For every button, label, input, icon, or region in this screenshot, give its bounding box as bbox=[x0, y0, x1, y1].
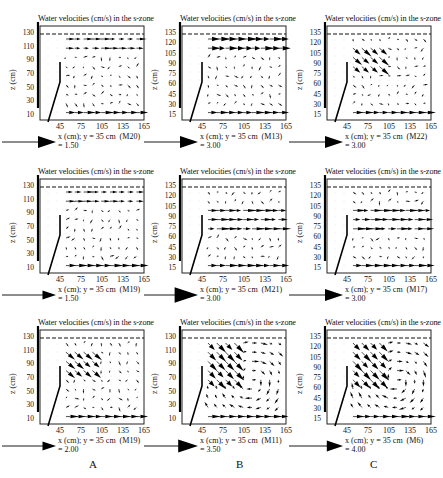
x-tick-label: 75 bbox=[213, 122, 233, 131]
vector-plot-m17: Water velocities (cm/s) in the s-zonez (… bbox=[287, 167, 435, 317]
x-tick-label: 105 bbox=[379, 426, 399, 435]
x-tick-label: 45 bbox=[50, 275, 70, 284]
y-tick-label: 75 bbox=[301, 69, 321, 78]
y-tick-label: 90 bbox=[14, 55, 34, 64]
x-axis-label: x (cm); y = 35 cm bbox=[58, 285, 116, 294]
x-axis-caption: x (cm); y = 35 cm(M19) bbox=[58, 436, 140, 445]
plot-title: Water velocities (cm/s) in the s-zone bbox=[180, 318, 296, 327]
x-tick-label: 135 bbox=[113, 426, 133, 435]
y-tick-label: 30 bbox=[14, 96, 34, 105]
x-tick-label: 135 bbox=[400, 426, 420, 435]
y-tick-label: 45 bbox=[301, 90, 321, 99]
y-tick-label: 90 bbox=[301, 212, 321, 221]
y-tick-label: 45 bbox=[156, 90, 176, 99]
x-axis-label: x (cm); y = 35 cm bbox=[345, 436, 403, 445]
x-tick-label: 75 bbox=[358, 426, 378, 435]
column-label-b: B bbox=[236, 458, 243, 470]
y-tick-label: 30 bbox=[301, 100, 321, 109]
y-tick-label: 130 bbox=[156, 332, 176, 341]
y-tick-label: 110 bbox=[156, 346, 176, 355]
y-tick-label: 105 bbox=[156, 49, 176, 58]
y-tick-label: 110 bbox=[14, 346, 34, 355]
y-tick-label: 75 bbox=[301, 373, 321, 382]
vector-plot-m21: Water velocities (cm/s) in the s-zonez (… bbox=[142, 167, 290, 317]
plot-title: Water velocities (cm/s) in the s-zone bbox=[325, 318, 441, 327]
x-axis-label: x (cm); y = 35 cm bbox=[200, 436, 258, 445]
scale-value: = 3.00 bbox=[200, 141, 221, 150]
vector-plot-m20: Water velocities (cm/s) in the s-zonez (… bbox=[0, 14, 148, 164]
x-tick-label: 165 bbox=[421, 275, 441, 284]
x-tick-label: 45 bbox=[192, 122, 212, 131]
x-axis-label: x (cm); y = 35 cm bbox=[200, 132, 258, 141]
x-tick-label: 135 bbox=[113, 275, 133, 284]
x-tick-label: 105 bbox=[234, 426, 254, 435]
x-tick-label: 45 bbox=[337, 122, 357, 131]
x-axis-label: x (cm); y = 35 cm bbox=[200, 285, 258, 294]
x-axis-caption: x (cm); y = 35 cm(M21) bbox=[200, 285, 282, 294]
y-tick-label: 30 bbox=[156, 253, 176, 262]
x-axis-caption: x (cm); y = 35 cm(M6) bbox=[345, 436, 423, 445]
y-tick-label: 130 bbox=[14, 332, 34, 341]
x-tick-label: 75 bbox=[213, 426, 233, 435]
run-id: (M21) bbox=[262, 285, 282, 294]
scale-value: = 4.00 bbox=[345, 445, 366, 454]
x-tick-label: 75 bbox=[358, 275, 378, 284]
x-tick-label: 135 bbox=[255, 275, 275, 284]
x-axis-caption: x (cm); y = 35 cm(M22) bbox=[345, 132, 427, 141]
x-tick-label: 105 bbox=[92, 426, 112, 435]
x-axis-caption: x (cm); y = 35 cm(M11) bbox=[200, 436, 282, 445]
y-tick-label: 90 bbox=[14, 208, 34, 217]
y-tick-label: 135 bbox=[301, 28, 321, 37]
run-id: (M22) bbox=[407, 132, 427, 141]
x-axis-label: x (cm); y = 35 cm bbox=[58, 132, 116, 141]
y-tick-label: 135 bbox=[156, 28, 176, 37]
y-tick-label: 45 bbox=[301, 394, 321, 403]
y-tick-label: 30 bbox=[14, 400, 34, 409]
x-tick-label: 45 bbox=[192, 275, 212, 284]
y-tick-label: 135 bbox=[156, 181, 176, 190]
y-tick-label: 15 bbox=[156, 110, 176, 119]
y-tick-label: 120 bbox=[301, 38, 321, 47]
y-tick-label: 105 bbox=[301, 202, 321, 211]
y-tick-label: 70 bbox=[14, 69, 34, 78]
scale-value: = 1.50 bbox=[58, 294, 79, 303]
x-tick-label: 135 bbox=[400, 122, 420, 131]
y-tick-label: 110 bbox=[14, 195, 34, 204]
scale-value: = 3.00 bbox=[345, 294, 366, 303]
x-tick-label: 105 bbox=[92, 275, 112, 284]
x-tick-label: 45 bbox=[192, 426, 212, 435]
scale-value: = 1.50 bbox=[58, 141, 79, 150]
vector-plot-m19b: Water velocities (cm/s) in the s-zonez (… bbox=[0, 318, 148, 468]
x-axis-label: x (cm); y = 35 cm bbox=[58, 436, 116, 445]
y-tick-label: 90 bbox=[14, 359, 34, 368]
y-tick-label: 10 bbox=[14, 263, 34, 272]
x-tick-label: 105 bbox=[379, 275, 399, 284]
y-tick-label: 30 bbox=[156, 400, 176, 409]
y-tick-label: 120 bbox=[156, 38, 176, 47]
y-tick-label: 90 bbox=[156, 59, 176, 68]
x-tick-label: 75 bbox=[358, 122, 378, 131]
y-tick-label: 90 bbox=[156, 212, 176, 221]
run-id: (M11) bbox=[262, 436, 282, 445]
x-tick-label: 45 bbox=[337, 275, 357, 284]
y-tick-label: 105 bbox=[301, 353, 321, 362]
x-axis-caption: x (cm); y = 35 cm(M19) bbox=[58, 285, 140, 294]
scale-value: = 2.00 bbox=[58, 445, 79, 454]
x-axis-caption: x (cm); y = 35 cm(M20) bbox=[58, 132, 140, 141]
y-tick-label: 120 bbox=[301, 191, 321, 200]
y-tick-label: 60 bbox=[156, 79, 176, 88]
run-id: (M20) bbox=[120, 132, 140, 141]
run-id: (M13) bbox=[262, 132, 282, 141]
y-tick-label: 105 bbox=[156, 202, 176, 211]
run-id: (M6) bbox=[407, 436, 423, 445]
y-tick-label: 60 bbox=[301, 79, 321, 88]
y-tick-label: 90 bbox=[156, 359, 176, 368]
y-tick-label: 75 bbox=[301, 222, 321, 231]
y-tick-label: 15 bbox=[301, 110, 321, 119]
x-tick-label: 135 bbox=[113, 122, 133, 131]
plot-title: Water velocities (cm/s) in the s-zone bbox=[38, 318, 154, 327]
y-tick-label: 135 bbox=[301, 181, 321, 190]
column-label-a: A bbox=[89, 458, 97, 470]
plot-title: Water velocities (cm/s) in the s-zone bbox=[180, 14, 296, 23]
y-tick-label: 30 bbox=[301, 253, 321, 262]
